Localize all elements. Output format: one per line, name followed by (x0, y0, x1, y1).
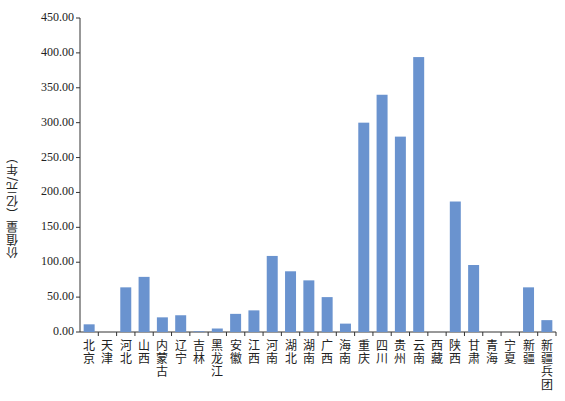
x-tick-label: 四川 (374, 340, 390, 366)
bar (358, 123, 369, 332)
x-tick-label: 贵州 (392, 340, 408, 366)
x-tick-label: 宁夏 (502, 340, 518, 366)
x-tick-label: 天津 (99, 340, 115, 366)
x-tick-label: 湖南 (301, 340, 317, 366)
bar (120, 287, 131, 332)
x-tick-label: 安徽 (228, 340, 244, 366)
bar (84, 324, 95, 332)
x-tick-label: 吉林 (191, 340, 207, 366)
y-axis-label: 价值量（亿元/年） (4, 150, 21, 259)
y-tick-label: 150.00 (14, 219, 74, 234)
x-tick-label: 山西 (136, 340, 152, 366)
x-tick-label: 北京 (81, 340, 97, 366)
x-tick-label: 甘肃 (466, 340, 482, 366)
bar (450, 202, 461, 332)
y-tick-label: 350.00 (14, 80, 74, 95)
bar (230, 314, 241, 332)
bar (212, 329, 223, 332)
y-tick-label: 250.00 (14, 150, 74, 165)
bar (523, 287, 534, 332)
x-tick-label: 辽宁 (173, 340, 189, 366)
y-tick-label: 450.00 (14, 10, 74, 25)
x-tick-label: 内蒙古 (154, 340, 170, 379)
y-tick-label: 200.00 (14, 184, 74, 199)
bar (194, 331, 205, 332)
bar (303, 280, 314, 332)
x-tick-label: 河北 (118, 340, 134, 366)
bar (267, 256, 278, 332)
bar (395, 137, 406, 332)
x-tick-label: 湖北 (283, 340, 299, 366)
x-tick-label: 重庆 (356, 340, 372, 366)
y-tick-label: 100.00 (14, 254, 74, 269)
x-tick-label: 云南 (411, 340, 427, 366)
x-tick-label: 西藏 (429, 340, 445, 366)
bar (248, 310, 259, 332)
x-tick-label: 河南 (264, 340, 280, 366)
y-tick-label: 50.00 (14, 289, 74, 304)
bar (157, 317, 168, 332)
x-tick-label: 黑龙江 (209, 340, 225, 379)
bar (541, 320, 552, 332)
x-tick-label: 新疆 (521, 340, 537, 366)
bar (175, 315, 186, 332)
bar (139, 277, 150, 332)
bar (468, 265, 479, 332)
x-tick-label: 新疆兵团 (539, 340, 555, 392)
y-tick-label: 400.00 (14, 45, 74, 60)
y-tick-label: 0.00 (14, 324, 74, 339)
bar (285, 271, 296, 332)
bar (322, 297, 333, 332)
bar (377, 95, 388, 332)
bar (413, 57, 424, 332)
y-tick-label: 300.00 (14, 115, 74, 130)
x-tick-label: 广西 (319, 340, 335, 366)
x-tick-label: 青海 (484, 340, 500, 366)
x-tick-label: 江西 (246, 340, 262, 366)
x-tick-label: 陕西 (447, 340, 463, 366)
bar-chart: 价值量（亿元/年） 0.0050.00100.00150.00200.00250… (0, 0, 565, 401)
x-tick-label: 海南 (337, 340, 353, 366)
bar (340, 324, 351, 332)
